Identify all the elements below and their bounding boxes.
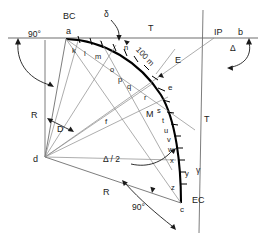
station-tick-v: v (167, 136, 171, 144)
external-line-ip-to-d (45, 38, 214, 157)
gamma-label: γ (196, 166, 200, 175)
station-tick-q: q (127, 83, 131, 91)
station-tick-l: l (84, 50, 86, 58)
station-tick-o: o (110, 66, 114, 74)
tangent-label-top: T (148, 24, 154, 33)
point-label-d: d (33, 155, 38, 164)
point-label-bc: BC (63, 12, 76, 21)
point-label-b: b (238, 28, 243, 37)
middle-ordinate-label: M (146, 110, 154, 119)
radius-label-lower: R (103, 188, 110, 197)
station-tick-m: m (95, 53, 101, 61)
station-tick-w: w (168, 146, 173, 154)
delta-half-arc (131, 151, 172, 165)
radius-line-left (45, 39, 66, 157)
tangent-label-right: T (204, 115, 210, 124)
station-tick-t: t (162, 117, 164, 125)
radius-label-left: R (31, 111, 38, 120)
radius-ray-n (45, 45, 116, 157)
point-label-a: a (66, 27, 71, 36)
right-angle-arrowhead-top-a (15, 38, 21, 44)
station-tick-y: y (185, 170, 189, 178)
station-tick-n: n (124, 44, 128, 52)
point-label-f: f (105, 118, 107, 126)
curve-layout-diagram: BC a IP b d EC c e f k l m n o p q r s t… (0, 0, 270, 237)
point-label-c: c (180, 206, 184, 214)
station-tick-u: u (164, 127, 168, 135)
delta-half-label: Δ / 2 (103, 155, 120, 164)
external-distance-label: E (175, 56, 181, 65)
delta-big-arrowhead-b (227, 66, 233, 71)
chord-leader-line (156, 49, 175, 74)
delta-big-arrowhead-a (246, 38, 252, 44)
delta-big-label: Δ (230, 44, 236, 53)
right-angle-label-bottom: 90° (132, 203, 145, 212)
radius-ray-k (45, 41, 78, 157)
station-tick-r: r (144, 94, 147, 102)
station-tick-x: x (170, 157, 174, 165)
station-tick-s: s (157, 107, 161, 115)
delta-small-label: δ (104, 10, 109, 19)
point-label-e: e (168, 84, 172, 92)
station-tick-z: z (171, 184, 175, 192)
delta-small-leader (111, 20, 119, 36)
point-label-ip: IP (214, 28, 223, 37)
angle-d-label: D (57, 125, 64, 134)
right-angle-label-top: 90° (28, 30, 41, 39)
station-tick-k: k (72, 47, 76, 55)
radius-lower-arrowhead (150, 187, 155, 193)
station-tick-p: p (118, 76, 122, 84)
point-label-ec: EC (192, 196, 205, 205)
